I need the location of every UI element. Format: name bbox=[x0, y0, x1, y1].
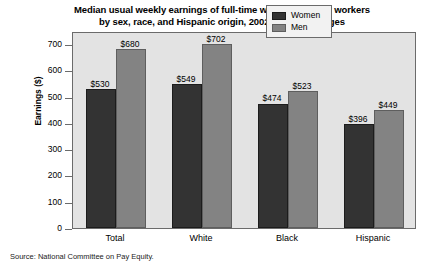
bar-value-label: $530 bbox=[80, 79, 120, 89]
y-axis-tick: 700 bbox=[0, 45, 72, 46]
y-axis-tick-mark bbox=[65, 229, 72, 230]
chart-legend: Women Men bbox=[266, 5, 332, 38]
bar-value-label: $523 bbox=[282, 81, 322, 91]
y-axis-tick: 300 bbox=[0, 150, 72, 151]
y-axis-tick: 200 bbox=[0, 176, 72, 177]
y-axis-tick-label: 300 bbox=[48, 144, 62, 154]
y-axis-tick-label: 600 bbox=[48, 65, 62, 75]
legend-item-women: Women bbox=[272, 10, 326, 21]
y-axis-tick-label: 400 bbox=[48, 118, 62, 128]
plot-inner bbox=[73, 33, 415, 228]
x-axis-label-total: Total bbox=[75, 233, 155, 243]
bar-hispanic-men bbox=[374, 110, 404, 228]
y-axis-tick: 100 bbox=[0, 203, 72, 204]
y-axis-tick: 400 bbox=[0, 124, 72, 125]
y-axis-tick-mark bbox=[65, 45, 72, 46]
y-axis-tick-label: 500 bbox=[48, 92, 62, 102]
y-axis-tick-label: 700 bbox=[48, 39, 62, 49]
x-axis-label-black: Black bbox=[247, 233, 327, 243]
y-axis-tick: 500 bbox=[0, 98, 72, 99]
bar-value-label: $396 bbox=[338, 114, 378, 124]
legend-label-women: Women bbox=[291, 11, 320, 20]
bar-black-women bbox=[258, 104, 288, 229]
bar-value-label: $474 bbox=[252, 93, 292, 103]
bar-value-label: $680 bbox=[110, 39, 150, 49]
y-axis-tick-mark bbox=[65, 98, 72, 99]
y-axis-tick-mark bbox=[65, 150, 72, 151]
bar-white-men bbox=[202, 44, 232, 228]
y-axis-tick-mark bbox=[65, 203, 72, 204]
bar-white-women bbox=[172, 84, 202, 228]
bar-total-men bbox=[116, 49, 146, 228]
legend-swatch-women-icon bbox=[272, 12, 286, 20]
plot-area bbox=[72, 32, 416, 229]
y-axis-tick-label: 200 bbox=[48, 170, 62, 180]
x-axis-label-hispanic: Hispanic bbox=[333, 233, 413, 243]
chart-title: Median usual weekly earnings of full-tim… bbox=[0, 4, 444, 27]
legend-swatch-men-icon bbox=[272, 24, 286, 32]
y-axis-tick-mark bbox=[65, 71, 72, 72]
bar-hispanic-women bbox=[344, 124, 374, 228]
y-axis-title: Earnings ($) bbox=[33, 41, 43, 161]
bar-value-label: $549 bbox=[166, 74, 206, 84]
legend-label-men: Men bbox=[291, 23, 308, 32]
bar-black-men bbox=[288, 91, 318, 228]
y-axis-tick-mark bbox=[65, 124, 72, 125]
y-axis-tick-label: 0 bbox=[57, 223, 62, 233]
legend-item-men: Men bbox=[272, 22, 326, 33]
source-note: Source: National Committee on Pay Equity… bbox=[10, 252, 154, 261]
bar-total-women bbox=[86, 89, 116, 228]
y-axis-tick-label: 100 bbox=[48, 197, 62, 207]
bar-value-label: $449 bbox=[368, 100, 408, 110]
y-axis-tick-mark bbox=[65, 176, 72, 177]
bar-value-label: $702 bbox=[196, 34, 236, 44]
chart-title-line-1: Median usual weekly earnings of full-tim… bbox=[0, 4, 444, 16]
y-axis-tick: 0 bbox=[0, 229, 72, 230]
x-axis-label-white: White bbox=[161, 233, 241, 243]
chart-title-line-2: by sex, race, and Hispanic origin, 2002 … bbox=[0, 16, 444, 28]
y-axis-tick: 600 bbox=[0, 71, 72, 72]
